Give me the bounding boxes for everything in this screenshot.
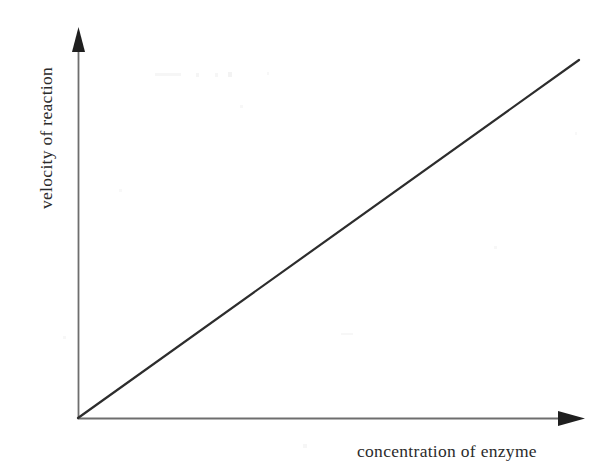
figure-canvas: velocity of reaction concentration of en… (0, 0, 605, 472)
y-axis-arrowhead-icon (72, 27, 85, 52)
plot-drawing (0, 0, 605, 472)
y-axis-label-text: velocity of reaction (38, 67, 56, 209)
data-line-rate-of-reaction (78, 60, 579, 418)
x-axis-arrowhead-icon (558, 411, 585, 426)
x-axis-label: concentration of enzyme (357, 443, 537, 461)
